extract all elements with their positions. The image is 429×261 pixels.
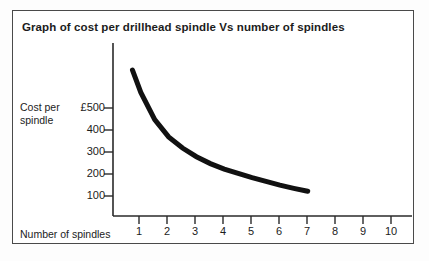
x-tick-label-10: 10 xyxy=(380,225,402,237)
x-tick-label-7: 7 xyxy=(296,225,318,237)
x-tick-label-1: 1 xyxy=(128,225,150,237)
x-tick-label-9: 9 xyxy=(352,225,374,237)
x-tick-label-4: 4 xyxy=(212,225,234,237)
chart-figure: Graph of cost per drillhead spindle Vs n… xyxy=(0,0,429,261)
x-tick-label-5: 5 xyxy=(240,225,262,237)
x-tick-label-2: 2 xyxy=(156,225,178,237)
y-axis-title-line1: Cost per xyxy=(20,101,104,114)
x-axis-title: Number of spindles xyxy=(20,228,110,240)
x-tick-label-3: 3 xyxy=(184,225,206,237)
x-tick-label-6: 6 xyxy=(268,225,290,237)
x-tick-label-8: 8 xyxy=(324,225,346,237)
x-tick-labels: 1 2 3 4 5 6 7 8 9 10 xyxy=(0,0,429,261)
y-axis-title-line2: spindle xyxy=(20,114,104,127)
y-axis-title: Cost per spindle xyxy=(20,101,104,126)
